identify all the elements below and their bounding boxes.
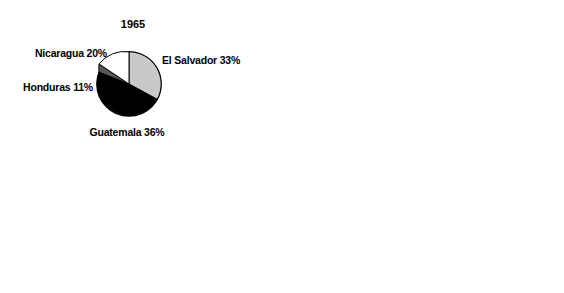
pie-chart-1965: 1965 Nicaragua 20% Honduras 11% El Salva… [0, 0, 282, 150]
slice-label-honduras: Honduras 11% [23, 81, 93, 93]
pie-svg-1965 [96, 51, 162, 117]
slice-label-guatemala: Guatemala 36% [89, 126, 164, 138]
pie-chart-1996: 1996 Nicaragua 6% Honduras 12% El Salvad… [175, 155, 455, 293]
slice-label-nicaragua: Nicaragua 20% [35, 47, 107, 59]
chart-title-1965: 1965 [121, 18, 145, 30]
pie-chart-1980: 1980 Nicaragua 20% Honduras 12% El Salva… [300, 0, 564, 150]
pie-graphic-1965 [96, 51, 162, 117]
slice-label-el-salvador: El Salvador 33% [162, 54, 240, 66]
